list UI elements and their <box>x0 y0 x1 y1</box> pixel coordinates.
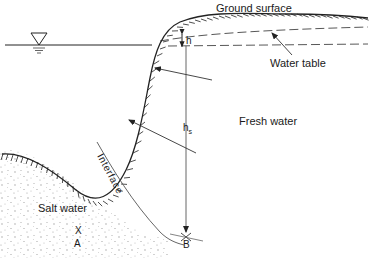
point-a-label: A <box>74 239 81 249</box>
fresh-water-label: Fresh water <box>239 116 297 127</box>
water-table-label: Water table <box>270 58 326 69</box>
water-table-leader-arrow <box>272 33 292 55</box>
upper-slope-leader-arrow <box>155 68 212 80</box>
h-dimension-label: h <box>186 36 192 46</box>
hs-dimension-label: hs <box>183 123 192 135</box>
hs-subscript: s <box>189 128 193 135</box>
ground-surface-line <box>2 13 368 198</box>
figure-canvas: Ground surface Water table Fresh water S… <box>0 0 370 258</box>
sea-level-symbol <box>31 33 47 53</box>
point-b-label: B <box>183 240 190 250</box>
point-a-marker-glyph: X <box>75 226 82 236</box>
salt-water-label: Salt water <box>38 203 87 214</box>
sea-level-dashed-extension <box>168 44 368 46</box>
ground-surface-label: Ground surface <box>216 3 292 14</box>
